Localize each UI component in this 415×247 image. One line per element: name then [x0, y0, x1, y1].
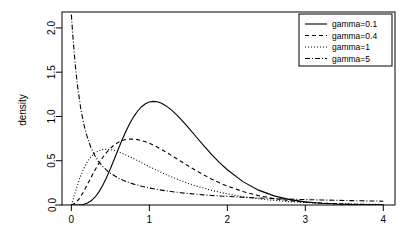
x-tick-label: 3	[303, 214, 309, 225]
x-tick-label: 0	[69, 214, 75, 225]
x-tick-label: 4	[381, 214, 387, 225]
y-tick-label: 0.0	[47, 198, 58, 212]
legend-label-2[interactable]: gamma=0.4	[332, 31, 377, 41]
y-tick-label: 2.0	[47, 21, 58, 35]
legend-label-4[interactable]: gamma=5	[332, 54, 370, 64]
density-plot-figure: 01234 0.00.51.01.52.0 density gamma=0.1g…	[0, 0, 415, 247]
y-axis: 0.00.51.01.52.0	[47, 21, 63, 212]
x-axis: 01234	[69, 205, 387, 225]
curve-gamma-0-1	[71, 101, 383, 205]
plot-canvas: 01234 0.00.51.01.52.0 density gamma=0.1g…	[0, 0, 415, 247]
y-tick-label: 0.5	[47, 153, 58, 167]
x-tick-label: 2	[225, 214, 231, 225]
y-axis-label: density	[17, 94, 28, 126]
legend-label-3[interactable]: gamma=1	[332, 42, 370, 52]
x-tick-label: 1	[147, 214, 153, 225]
y-tick-label: 1.0	[47, 109, 58, 123]
legend[interactable]: gamma=0.1gamma=0.4gamma=1gamma=5	[299, 14, 392, 66]
y-tick-label: 1.5	[47, 65, 58, 79]
legend-label-1[interactable]: gamma=0.1	[332, 19, 377, 29]
